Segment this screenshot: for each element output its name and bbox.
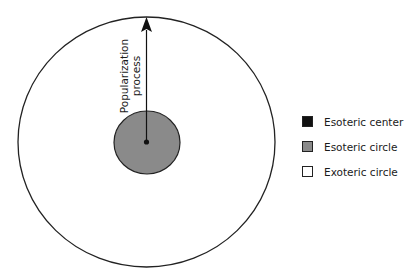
legend-label: Esoteric circle xyxy=(324,141,397,153)
legend-item-esoteric-center: Esoteric center xyxy=(302,109,403,134)
esoteric-circle-swatch-icon xyxy=(302,141,313,152)
exoteric-circle-swatch-icon xyxy=(302,166,313,177)
arrow-label: Popularization process xyxy=(118,39,142,113)
legend-label: Exoteric circle xyxy=(324,166,398,178)
legend-item-exoteric-circle: Exoteric circle xyxy=(302,159,403,184)
legend-label: Esoteric center xyxy=(324,116,403,128)
arrow-label-line2: process xyxy=(130,39,142,113)
esoteric-center xyxy=(144,139,149,144)
legend: Esoteric center Esoteric circle Exoteric… xyxy=(302,109,403,184)
legend-item-esoteric-circle: Esoteric circle xyxy=(302,134,403,159)
arrow-label-line1: Popularization xyxy=(118,39,130,113)
esoteric-center-swatch-icon xyxy=(302,116,313,127)
